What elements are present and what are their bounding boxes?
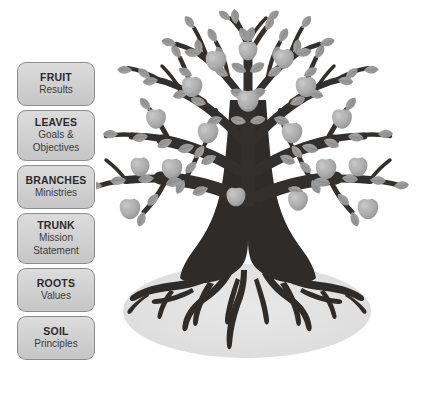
legend-item-trunk-title: TRUNK	[37, 219, 75, 232]
legend-item-leaves-subtitle-line2: Objectives	[33, 142, 80, 155]
legend-item-soil[interactable]: SOIL Principles	[17, 316, 95, 360]
legend-item-soil-subtitle: Principles	[34, 338, 77, 351]
legend-item-leaves-title: LEAVES	[35, 116, 77, 129]
legend-column: FRUIT Results LEAVES Goals & Objectives …	[17, 62, 95, 364]
legend-item-fruit-title: FRUIT	[40, 71, 72, 84]
legend-item-branches-title: BRANCHES	[25, 174, 86, 187]
legend-item-roots[interactable]: ROOTS Values	[17, 268, 95, 312]
diagram-root: FRUIT Results LEAVES Goals & Objectives …	[0, 0, 423, 405]
legend-item-branches-subtitle: Ministries	[35, 187, 77, 200]
legend-item-leaves[interactable]: LEAVES Goals & Objectives	[17, 110, 95, 161]
legend-item-fruit-subtitle: Results	[39, 84, 72, 97]
legend-item-roots-title: ROOTS	[37, 277, 75, 290]
legend-item-leaves-subtitle-line1: Goals &	[38, 129, 74, 142]
legend-item-roots-subtitle: Values	[41, 290, 71, 303]
legend-item-fruit[interactable]: FRUIT Results	[17, 62, 95, 106]
legend-item-soil-title: SOIL	[43, 325, 68, 338]
legend-item-branches[interactable]: BRANCHES Ministries	[17, 165, 95, 209]
legend-item-trunk-subtitle-line1: Mission	[39, 232, 73, 245]
tree-illustration	[96, 0, 423, 405]
legend-item-trunk[interactable]: TRUNK Mission Statement	[17, 213, 95, 264]
legend-item-trunk-subtitle-line2: Statement	[33, 245, 79, 258]
